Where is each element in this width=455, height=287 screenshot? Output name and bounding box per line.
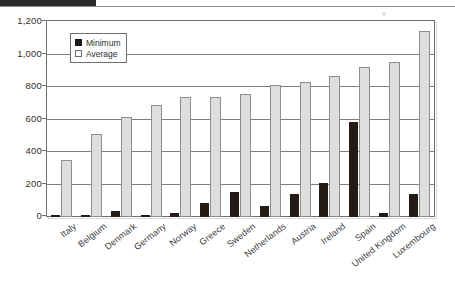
bar-group [345, 21, 375, 217]
bar-minimum [81, 215, 90, 217]
bar-minimum [200, 203, 209, 217]
x-axis-tick-label: Austria [289, 221, 318, 247]
bar-average [389, 62, 400, 217]
y-axis-tick-label: 1,200 [17, 15, 42, 26]
bar-minimum [379, 213, 388, 217]
bar-group [136, 21, 166, 217]
x-axis: ItalyBelgiumDenmarkGermanyNorwayGreeceSw… [47, 219, 434, 285]
bar-minimum [409, 194, 418, 217]
x-axis-tick-label: Germany [132, 221, 168, 252]
grouped-bar-chart: 02004006008001,0001,200 ItalyBelgiumDenm… [0, 0, 455, 287]
filled-square-icon [75, 39, 82, 46]
bar-minimum [111, 211, 120, 217]
y-axis-tick-label: 400 [26, 145, 42, 156]
y-axis: 02004006008001,0001,200 [0, 20, 42, 217]
outline-square-icon [75, 50, 82, 57]
x-axis-tick-label: Norway [167, 221, 198, 248]
chart-legend: Minimum Average [70, 33, 127, 63]
x-axis-tick-label: Italy [59, 221, 79, 239]
legend-item-minimum: Minimum [75, 37, 120, 48]
bar-average [359, 67, 370, 217]
bar-average [240, 94, 251, 217]
x-axis-tick-label: Ireland [319, 221, 347, 246]
bar-minimum [51, 215, 60, 217]
y-axis-tick-label: 600 [26, 112, 42, 123]
bar-minimum [260, 206, 269, 217]
y-axis-tick-label: 800 [26, 80, 42, 91]
bar-group [374, 21, 404, 217]
x-axis-tick-label: Denmark [102, 221, 137, 252]
legend-item-average: Average [75, 48, 120, 59]
bar-group [315, 21, 345, 217]
bar-average [210, 97, 221, 217]
bar-group [255, 21, 285, 217]
bar-average [61, 160, 72, 217]
bar-minimum [349, 122, 358, 217]
bar-minimum [319, 183, 328, 217]
legend-label-minimum: Minimum [86, 38, 120, 48]
bar-group [404, 21, 434, 217]
bar-average [91, 134, 102, 217]
bar-minimum [141, 215, 150, 217]
bar-group [285, 21, 315, 217]
bar-group [226, 21, 256, 217]
bar-average [180, 97, 191, 217]
bar-minimum [290, 194, 299, 217]
bar-group [166, 21, 196, 217]
bar-average [300, 82, 311, 217]
bar-minimum [230, 192, 239, 217]
bar-average [329, 76, 340, 217]
legend-label-average: Average [86, 49, 118, 59]
x-axis-tick-label: Spain [353, 221, 378, 243]
y-axis-tick-label: 1,000 [17, 47, 42, 58]
bar-average [270, 85, 281, 217]
x-axis-tick-label: Greece [198, 221, 228, 247]
y-axis-tick-label: 200 [26, 177, 42, 188]
bar-group [196, 21, 226, 217]
bar-average [121, 117, 132, 217]
bar-average [151, 105, 162, 217]
bar-average [419, 31, 430, 217]
bar-minimum [170, 213, 179, 217]
